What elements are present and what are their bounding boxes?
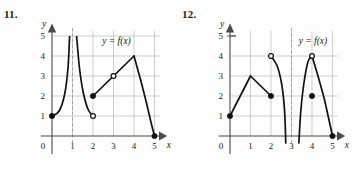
x-tick-label-3: 3 [111,141,116,151]
curve-group [230,56,333,143]
problem-11: 11. 12345123450xyy = f(x) [0,0,178,171]
filled-point-5-0 [152,133,157,138]
filled-point-2-2 [268,93,273,98]
x-tick-label-1: 1 [248,141,253,151]
curve-equation-label: y = f(x) [298,36,328,47]
y-tick-label-4: 4 [41,51,46,61]
open-point-4-4 [310,54,315,59]
y-axis-label: y [41,19,47,29]
y-tick-label-1: 1 [41,111,46,121]
x-tick-label-2: 2 [91,141,96,151]
open-point-2-4 [269,54,274,59]
graph-11-plot: 12345123450xyy = f(x) [28,10,176,165]
curve-segment-falling-straight-segment [251,76,272,96]
graph-12-plot: 12345123450xyy = f(x) [206,10,354,165]
problem-12: 12. 12345123450xyy = f(x) [178,0,355,171]
y-axis-arrowhead [226,24,234,33]
filled-point-0-1 [227,113,232,118]
x-axis-label: x [344,140,350,150]
y-tick-label-2: 2 [41,91,46,101]
y-tick-label-5: 5 [219,31,224,41]
x-tick-label-2: 2 [269,141,274,151]
open-point-3-3 [111,74,116,79]
y-axis-label: y [219,19,225,29]
curve-group [52,36,155,136]
x-axis-label: x [166,140,172,150]
filled-point-4-2 [309,93,314,98]
x-tick-label-5: 5 [152,141,157,151]
filled-point-0-1 [49,113,54,118]
y-tick-label-4: 4 [219,51,224,61]
origin-label: 0 [219,141,224,151]
y-tick-label-2: 2 [219,91,224,101]
curve-segment-right-branch-from-negative-infinity [299,56,312,143]
problem-number-label: 11. [4,8,18,20]
graph-12-svg: 12345123450xyy = f(x) [206,10,354,165]
x-tick-label-5: 5 [330,141,335,151]
y-axis-arrowhead [48,24,56,33]
x-tick-label-4: 4 [132,141,137,151]
curve-segment-left-branch-to-negative-infinity [271,56,286,143]
y-tick-label-1: 1 [219,111,224,121]
filled-point-5-0 [330,133,335,138]
curve-equation-label: y = f(x) [101,36,131,47]
open-point-2-1 [91,114,96,119]
x-tick-label-4: 4 [310,141,315,151]
y-tick-label-5: 5 [41,31,46,41]
graph-11-svg: 12345123450xyy = f(x) [28,10,176,165]
problem-number-label: 12. [182,8,196,20]
y-tick-label-3: 3 [219,71,224,81]
origin-label: 0 [41,141,46,151]
worksheet-page: 11. 12345123450xyy = f(x) 12. 1234512345… [0,0,355,171]
y-tick-label-3: 3 [41,71,46,81]
filled-point-2-2 [90,93,95,98]
